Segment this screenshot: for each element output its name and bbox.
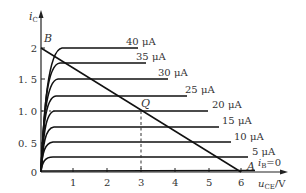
label-30uA: 30 μA [158,67,188,78]
point-a: A [246,160,255,173]
y-tick: 1. 5 [18,74,37,85]
curve-5uA [41,157,248,172]
label-10uA: 10 μA [234,131,264,142]
label-40uA: 40 μA [126,36,156,47]
y-axis-label: iC [29,10,38,24]
curve-25uA [41,96,187,172]
output-characteristic-chart: 1 2 3 4 5 6 0 0. 5 1. 0 1. 5 2 iC uCE/V … [0,0,306,193]
label-35uA: 35 μA [136,51,166,62]
x-tick-labels: 1 2 3 4 5 6 [70,177,244,188]
curve-15uA [41,127,219,172]
origin-label: 0 [31,167,37,178]
y-tick: 1. 0 [18,106,37,117]
y-axis-arrow-icon [39,10,44,18]
x-axis-label: uCE/V [258,178,286,191]
x-tick: 6 [238,177,244,188]
curve-30uA [41,79,168,172]
axes [41,14,282,172]
x-tick: 3 [138,177,144,188]
x-axis-arrow-icon [280,170,288,175]
y-tick: 0. 5 [18,138,37,149]
label-15uA: 15 μA [222,115,252,126]
load-line [41,48,241,172]
point-q: Q [141,97,150,110]
point-b: B [43,32,52,45]
curve-0uA [41,171,255,172]
x-tick: 1 [70,177,76,188]
x-tick: 4 [172,177,178,188]
x-tick: 2 [104,177,110,188]
label-ib0: iB=0 [258,157,281,170]
x-tick: 5 [206,177,212,188]
label-5uA: 5 μA [252,146,276,157]
label-25uA: 25 μA [185,84,215,95]
characteristic-curves [41,48,255,172]
label-20uA: 20 μA [212,99,242,110]
y-tick: 2 [31,43,37,54]
y-tick-labels: 0 0. 5 1. 0 1. 5 2 [18,43,37,178]
